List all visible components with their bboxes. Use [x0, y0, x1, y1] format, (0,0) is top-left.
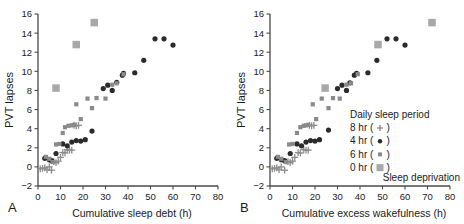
figure-container: 01020304050607080−20246810121416Cumulati…	[0, 0, 464, 224]
y-axis-title: PVT lapses	[3, 71, 15, 128]
plus-bar-v	[51, 167, 52, 174]
data-point-square	[85, 96, 89, 100]
data-point-circle	[105, 83, 110, 88]
plus-bar-v	[300, 150, 301, 157]
plus-bar-v	[284, 167, 285, 174]
series-0-hr	[321, 19, 435, 92]
data-point-circle	[152, 36, 157, 41]
data-point-square	[121, 72, 125, 76]
legend-item-4-hr[interactable]: 4 hr ()	[350, 135, 390, 146]
y-tick-label: 8	[259, 85, 264, 96]
panel-b: 01020304050607080−20246810121416Cumulati…	[232, 0, 464, 224]
series-0-hr	[52, 19, 98, 92]
y-tick-label: 2	[27, 142, 32, 153]
y-tick-label: 10	[21, 66, 32, 77]
legend-item-label: 0 hr (	[350, 162, 374, 173]
x-tick-label: 50	[377, 191, 388, 202]
data-point-circle	[110, 88, 115, 93]
y-tick-label: 4	[27, 123, 32, 134]
legend-footnote: Sleep deprivation	[383, 172, 460, 183]
data-point-square	[103, 96, 107, 100]
data-point-circle	[339, 83, 344, 88]
data-point-large-square	[428, 19, 436, 27]
plus-bar-v	[60, 154, 61, 161]
data-point-square	[295, 131, 299, 135]
plus-bar-v	[49, 163, 50, 170]
data-point-circle	[326, 128, 331, 133]
data-point-square	[344, 83, 348, 87]
legend-item-paren-close: )	[387, 149, 390, 160]
data-point-circle	[294, 141, 299, 146]
data-point-circle	[132, 70, 137, 75]
data-point-circle	[288, 151, 293, 156]
legend-marker-plus	[377, 125, 383, 131]
x-tick-label: 20	[78, 191, 89, 202]
y-tick-label: 10	[253, 66, 264, 77]
data-point-circle	[74, 138, 79, 143]
data-point-square	[311, 102, 315, 106]
data-point-square	[57, 142, 61, 146]
x-tick-label: 30	[332, 191, 343, 202]
plus-bar-v	[281, 163, 282, 170]
data-point-circle	[317, 137, 322, 142]
x-tick-label: 70	[422, 191, 433, 202]
plus-bar-v	[308, 147, 309, 154]
legend-marker-bigsquare	[377, 164, 384, 171]
data-point-square	[279, 157, 283, 161]
y-tick-label: 12	[21, 47, 32, 58]
data-point-circle	[65, 143, 70, 148]
data-point-square	[306, 123, 310, 127]
legend-item-8-hr[interactable]: 8 hr ()	[350, 122, 390, 133]
x-tick-label: 20	[310, 191, 321, 202]
plus-bar-v	[292, 158, 293, 165]
y-tick-label: −2	[21, 180, 32, 191]
data-point-square	[51, 160, 55, 164]
y-tick-label: 6	[259, 104, 264, 115]
data-point-circle	[170, 42, 175, 47]
x-axis-title: Cumulative sleep debt (h)	[72, 207, 192, 219]
panel-a: 01020304050607080−20246810121416Cumulati…	[0, 0, 232, 224]
plus-bar-v	[379, 125, 380, 131]
data-point-large-square	[91, 19, 99, 27]
data-point-large-square	[374, 41, 382, 49]
data-point-square	[331, 96, 335, 100]
data-point-circle	[78, 138, 83, 143]
x-tick-label: 80	[213, 191, 224, 202]
y-tick-label: 6	[27, 104, 32, 115]
plus-bar-v	[58, 158, 59, 165]
x-tick-label: 80	[445, 191, 456, 202]
y-tick-label: 16	[21, 8, 32, 19]
x-tick-label: 60	[168, 191, 179, 202]
legend-item-6-hr[interactable]: 6 hr ()	[350, 149, 390, 160]
data-point-square	[349, 81, 353, 85]
data-point-circle	[69, 139, 74, 144]
x-tick-label: 70	[190, 191, 201, 202]
x-tick-label: 40	[355, 191, 366, 202]
data-point-large-square	[321, 84, 329, 92]
data-point-circle	[335, 86, 340, 91]
series-8-hr	[269, 122, 317, 174]
data-point-square	[94, 96, 98, 100]
data-point-square	[74, 102, 78, 106]
data-point-square	[284, 160, 288, 164]
data-point-circle	[344, 88, 349, 93]
y-tick-label: −2	[253, 180, 264, 191]
x-tick-label: 10	[287, 191, 298, 202]
legend-marker-square	[378, 152, 382, 156]
series-8-hr	[37, 122, 82, 174]
x-tick-label: 30	[100, 191, 111, 202]
data-point-circle	[308, 138, 313, 143]
data-point-circle	[303, 139, 308, 144]
y-tick-label: 2	[259, 142, 264, 153]
data-point-square	[90, 106, 94, 110]
data-point-circle	[299, 143, 304, 148]
data-point-circle	[393, 36, 398, 41]
y-tick-label: 8	[27, 85, 32, 96]
legend-item-paren-close: )	[387, 135, 390, 146]
legend-item-label: 4 hr (	[350, 135, 374, 146]
data-point-square	[326, 106, 330, 110]
x-tick-label: 50	[145, 191, 156, 202]
x-tick-label: 60	[400, 191, 411, 202]
data-point-square	[110, 83, 114, 87]
panel-a-plot: 01020304050607080−20246810121416Cumulati…	[0, 0, 232, 224]
